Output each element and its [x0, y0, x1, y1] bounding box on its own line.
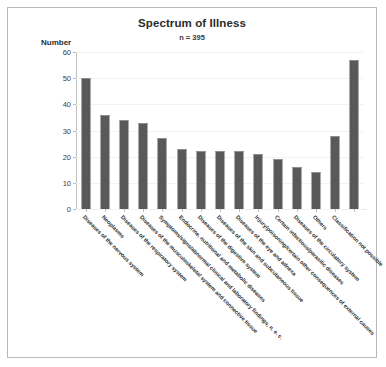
- bar-group[interactable]: Certain infectious/parasitic diseases: [268, 52, 287, 209]
- x-axis-tick-mark: [124, 209, 125, 212]
- bar[interactable]: [331, 136, 340, 209]
- bar[interactable]: [235, 151, 244, 209]
- bar[interactable]: [119, 120, 128, 209]
- x-axis-tick-mark: [354, 209, 355, 212]
- bar-group[interactable]: Injury/poisoning/certain other consequen…: [249, 52, 268, 209]
- bar-group[interactable]: Diseases of the circulatory system: [287, 52, 306, 209]
- x-axis-tick-label: Certain infectious/parasitic diseases: [273, 214, 345, 286]
- x-axis-tick-mark: [162, 209, 163, 212]
- bar[interactable]: [350, 60, 359, 209]
- bar-group[interactable]: Diseases of the nervous system: [76, 52, 95, 209]
- bar[interactable]: [81, 78, 90, 209]
- y-axis-title: Number: [41, 38, 71, 47]
- bar[interactable]: [215, 151, 224, 209]
- x-axis-tick-mark: [278, 209, 279, 212]
- bar[interactable]: [273, 159, 282, 209]
- bar-group[interactable]: Endocrine, nutritional and metabolic dis…: [172, 52, 191, 209]
- chart-frame: Spectrum of Illness n = 395 Number 01020…: [7, 7, 377, 358]
- bar-group[interactable]: Neoplasms: [95, 52, 114, 209]
- bar[interactable]: [311, 172, 320, 209]
- x-axis-tick-mark: [143, 209, 144, 212]
- bar[interactable]: [196, 151, 205, 209]
- x-axis-tick-mark: [239, 209, 240, 212]
- bar-group[interactable]: Diseases of the eye and adnexa: [230, 52, 249, 209]
- bar[interactable]: [254, 154, 263, 209]
- x-axis-tick-mark: [316, 209, 317, 212]
- plot-area: 0102030405060Diseases of the nervous sys…: [76, 52, 364, 209]
- bar[interactable]: [177, 149, 186, 209]
- bar-group[interactable]: Symptoms/signs/abnormal clinical and lab…: [153, 52, 172, 209]
- bar-group[interactable]: Diseases of the musculoskeletal system a…: [134, 52, 153, 209]
- x-axis-tick-mark: [105, 209, 106, 212]
- bar[interactable]: [292, 167, 301, 209]
- x-axis-tick-mark: [182, 209, 183, 212]
- x-axis-tick-mark: [201, 209, 202, 212]
- x-axis-tick-mark: [258, 209, 259, 212]
- x-axis-tick-mark: [86, 209, 87, 212]
- bar[interactable]: [100, 115, 109, 209]
- bar-group[interactable]: Diseases of the digestive system: [191, 52, 210, 209]
- bar-group[interactable]: Classification not possible: [326, 52, 345, 209]
- y-axis-tick-mark: [73, 209, 76, 210]
- bar-group[interactable]: Others: [306, 52, 325, 209]
- bar-group[interactable]: Diseases of the respiratory system: [114, 52, 133, 209]
- x-axis-tick-mark: [297, 209, 298, 212]
- bar[interactable]: [158, 138, 167, 209]
- x-axis-tick-label: Symptoms/signs/abnormal clinical and lab…: [158, 214, 285, 341]
- chart-title: Spectrum of Illness: [8, 17, 376, 29]
- bar-group[interactable]: Diseases of the skin and subcutaneous ti…: [210, 52, 229, 209]
- x-axis-tick-mark: [220, 209, 221, 212]
- x-axis-tick-mark: [335, 209, 336, 212]
- x-axis-tick-label: Others: [312, 214, 329, 231]
- bar-group[interactable]: [345, 52, 364, 209]
- bar[interactable]: [139, 123, 148, 209]
